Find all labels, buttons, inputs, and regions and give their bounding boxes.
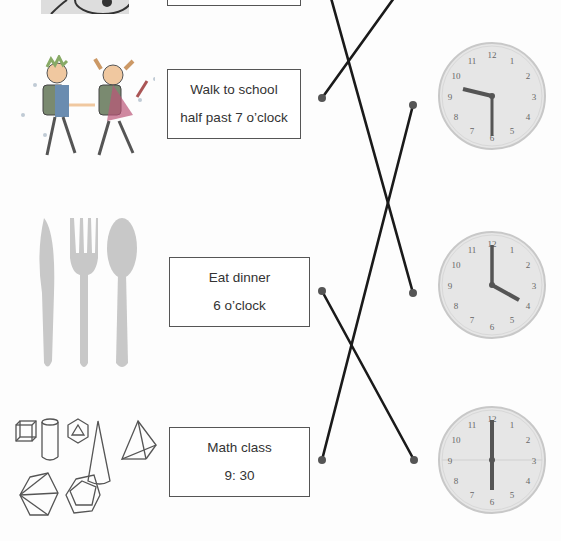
dot-walk [318,94,326,102]
svg-text:9: 9 [448,92,453,102]
activity-box-eat-dinner: Eat dinner 6 o’clock [169,257,310,327]
partial-drawing-icon [41,0,129,14]
svg-text:6: 6 [490,497,495,507]
children-walking-image [15,55,155,160]
svg-text:6: 6 [490,133,495,143]
dot-clock-1 [409,101,417,109]
activity-title: Math class [207,434,272,462]
svg-text:11: 11 [468,245,477,255]
match-line-dinner [322,291,414,460]
geometric-solids-icon [10,415,160,525]
cutlery-icon [30,213,140,373]
top-partial-image [41,0,129,14]
svg-text:9: 9 [448,281,453,291]
match-line-walk [322,0,394,98]
svg-text:3: 3 [532,456,537,466]
svg-text:2: 2 [526,260,531,270]
activity-time: 9: 30 [224,462,254,490]
svg-text:1: 1 [510,420,515,430]
svg-text:3: 3 [532,92,537,102]
activity-box-walk-to-school: Walk to school half past 7 o’clock [167,69,301,139]
svg-text:10: 10 [452,435,462,445]
svg-text:10: 10 [452,260,462,270]
activity-time: 6 o’clock [213,292,266,320]
geometric-solids-image [10,415,160,525]
activity-box-math-class: Math class 9: 30 [169,427,310,497]
svg-text:12: 12 [488,414,497,424]
svg-text:2: 2 [526,71,531,81]
cutlery-image [30,213,140,373]
svg-text:2: 2 [526,435,531,445]
svg-text:9: 9 [448,456,453,466]
svg-text:7: 7 [470,315,475,325]
svg-text:7: 7 [470,126,475,136]
match-line-clock1 [322,105,413,460]
svg-text:12: 12 [488,239,497,249]
svg-text:1: 1 [510,56,515,66]
activity-title: Walk to school [190,76,277,104]
clock-2: 121234567891011 [439,232,545,338]
match-line-top [331,0,413,293]
dot-clock-2 [409,289,417,297]
svg-text:4: 4 [526,112,531,122]
svg-text:4: 4 [526,476,531,486]
activity-time: half past 7 o’clock [180,104,287,132]
svg-text:6: 6 [490,322,495,332]
svg-text:7: 7 [470,490,475,500]
svg-text:12: 12 [488,50,497,60]
dot-clock-3 [410,456,418,464]
activity-box-top-partial [167,0,301,6]
dot-dinner [318,287,326,295]
svg-text:8: 8 [454,301,459,311]
clock-1: 121234567891011 [439,43,545,149]
activity-title: Eat dinner [209,264,271,292]
svg-text:5: 5 [510,490,515,500]
dot-math [318,456,326,464]
svg-text:11: 11 [468,56,477,66]
svg-text:10: 10 [452,71,462,81]
svg-text:8: 8 [454,112,459,122]
svg-text:5: 5 [510,315,515,325]
clock-3: 121234567891011 [439,407,545,513]
svg-text:3: 3 [532,281,537,291]
svg-text:1: 1 [510,245,515,255]
svg-text:5: 5 [510,126,515,136]
children-walking-icon [15,55,155,160]
svg-text:11: 11 [468,420,477,430]
svg-text:4: 4 [526,301,531,311]
svg-text:8: 8 [454,476,459,486]
